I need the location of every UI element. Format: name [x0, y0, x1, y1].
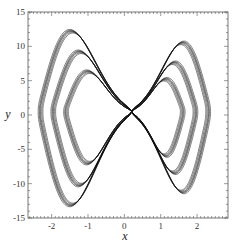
y-tick-label: -5	[18, 144, 26, 154]
y-tick-label: -15	[13, 213, 25, 223]
x-tick-label: -2	[48, 221, 56, 231]
y-tick-label: 15	[16, 7, 26, 17]
y-tick-label: -10	[13, 179, 25, 189]
y-axis-label: y	[4, 107, 11, 121]
x-tick-label: -1	[84, 221, 92, 231]
y-tick-labels: -15-10-5051015	[13, 7, 26, 223]
x-tick-label: 1	[158, 221, 163, 231]
y-tick-label: 0	[21, 110, 26, 120]
phase-portrait-chart: -15-10-5051015 -2-1012 x y	[0, 0, 237, 247]
x-axis-label: x	[121, 229, 128, 243]
y-tick-label: 5	[21, 76, 26, 86]
y-tick-label: 10	[16, 41, 26, 51]
x-tick-label: 2	[195, 221, 200, 231]
